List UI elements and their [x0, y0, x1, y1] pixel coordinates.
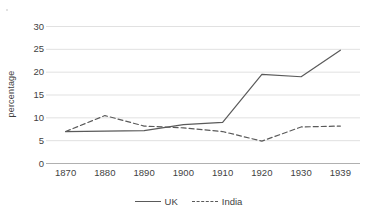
series-line-uk — [66, 50, 341, 131]
gridlines — [46, 27, 360, 164]
chart-legend: UKIndia — [0, 196, 377, 207]
x-axis-tick-label: 1930 — [281, 168, 321, 178]
series-line-india — [66, 116, 341, 142]
y-axis-tick-label: 5 — [20, 136, 44, 146]
y-axis-tick-label: 15 — [20, 90, 44, 100]
y-axis-tick-label: 25 — [20, 44, 44, 54]
x-axis-tick-label: 1890 — [124, 168, 164, 178]
series-lines — [66, 50, 341, 141]
x-axis-tick-label: 1910 — [203, 168, 243, 178]
y-axis-tick-label: 20 — [20, 67, 44, 77]
y-axis-tick-labels: 051015202530 — [16, 0, 44, 219]
x-axis-tick-label: 1900 — [163, 168, 203, 178]
legend-item-label: UK — [165, 196, 178, 207]
y-axis-tick-label: 0 — [20, 159, 44, 169]
legend-swatch-solid-line-icon — [135, 201, 161, 202]
legend-swatch-dashed-line-icon — [192, 201, 218, 202]
y-axis-tick-label: 10 — [20, 113, 44, 123]
y-axis-title-label: percentage — [6, 64, 16, 124]
x-axis-tick-label: 1870 — [46, 168, 86, 178]
image-artifact-speck — [6, 9, 8, 11]
line-chart: percentage 051015202530 1870188018901900… — [0, 0, 377, 219]
plot-area — [0, 0, 377, 219]
y-axis-tick-label: 30 — [20, 22, 44, 32]
legend-item-uk[interactable]: UK — [135, 196, 178, 207]
x-axis-tick-label: 1880 — [85, 168, 125, 178]
x-axis-tick-label: 1939 — [320, 168, 360, 178]
x-axis-tick-label: 1920 — [242, 168, 282, 178]
legend-item-label: India — [222, 196, 243, 207]
legend-item-india[interactable]: India — [192, 196, 243, 207]
